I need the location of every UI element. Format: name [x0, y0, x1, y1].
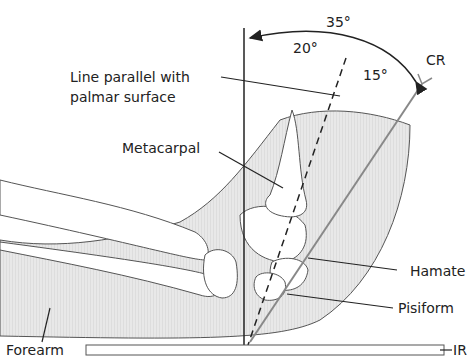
cr-tail-icon [418, 74, 432, 84]
angle-label-15: 15° [363, 67, 388, 84]
palmar-line-label-2: palmar surface [70, 89, 176, 106]
cr-label: CR [426, 52, 446, 69]
ir-label: IR [453, 342, 467, 359]
angle-arc-35 [250, 31, 416, 82]
angle-label-35: 35° [326, 14, 351, 31]
forearm-label: Forearm [6, 342, 64, 359]
angle-label-20: 20° [293, 40, 318, 57]
metacarpal-label: Metacarpal [122, 140, 200, 157]
leader-line-palmar [221, 77, 340, 96]
hamate-label: Hamate [410, 263, 465, 280]
image-receptor [86, 345, 444, 355]
palmar-line-label-1: Line parallel with [70, 69, 190, 86]
pisiform-label: Pisiform [398, 300, 454, 317]
